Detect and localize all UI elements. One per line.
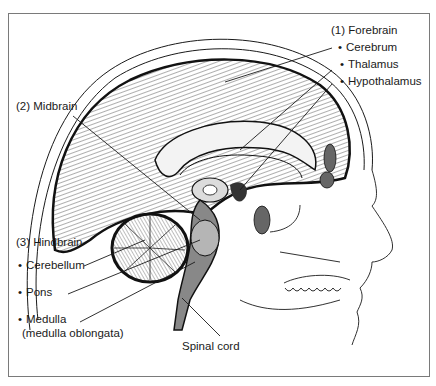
label-medulla: Medulla (18, 313, 66, 326)
label-hindbrain: (3) Hindbrain (16, 236, 82, 249)
label-hypothalamus: Hypothalamus (340, 75, 422, 88)
label-pons: Pons (18, 286, 52, 299)
label-midbrain: (2) Midbrain (16, 100, 77, 113)
face-profile (240, 170, 393, 345)
label-thalamus: Thalamus (340, 58, 399, 71)
label-cerebellum: Cerebellum (18, 259, 85, 272)
label-forebrain: (1) Forebrain (331, 24, 397, 37)
label-medulla-oblongata: (medulla oblongata) (22, 327, 124, 340)
label-spinal-cord: Spinal cord (182, 340, 240, 353)
pons-shape (191, 220, 219, 256)
label-cerebrum: Cerebrum (338, 41, 397, 54)
